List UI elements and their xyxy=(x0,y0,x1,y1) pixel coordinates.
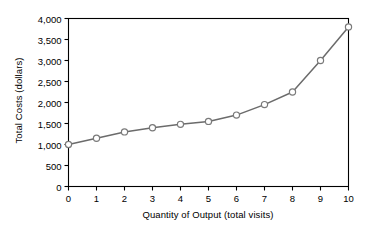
x-axis-tick-label: 9 xyxy=(318,193,323,204)
data-point-marker xyxy=(121,129,127,135)
data-point-marker xyxy=(317,57,323,63)
x-axis-tick-label: 6 xyxy=(234,193,239,204)
y-axis-tick-label: 2,500 xyxy=(24,76,62,87)
data-point-marker xyxy=(233,112,239,118)
x-axis-title: Quantity of Output (total visits) xyxy=(68,204,348,222)
y-axis-title-text: Total Costs (dollars) xyxy=(13,57,24,143)
x-axis-tick-label: 2 xyxy=(122,193,127,204)
y-axis-tick-label: 2,000 xyxy=(24,97,62,108)
x-axis-tick-label: 5 xyxy=(206,193,211,204)
x-axis-tick-label: 7 xyxy=(262,193,267,204)
data-point-marker xyxy=(177,121,183,127)
y-axis-tick-label: 3,500 xyxy=(24,34,62,45)
y-axis-tick-label: 1,500 xyxy=(24,118,62,129)
data-point-marker xyxy=(65,141,71,147)
data-point-marker xyxy=(345,24,351,30)
x-axis-tick-label: 4 xyxy=(178,193,183,204)
x-axis-title-text: Quantity of Output (total visits) xyxy=(142,209,273,220)
y-axis-tick-label: 0 xyxy=(24,181,62,192)
x-axis-tick-label: 1 xyxy=(94,193,99,204)
x-axis-tick-label: 3 xyxy=(150,193,155,204)
x-axis-tick-label: 10 xyxy=(343,193,354,204)
y-axis-tick-label: 4,000 xyxy=(24,13,62,24)
y-axis-tick-label: 3,000 xyxy=(24,55,62,66)
data-point-marker xyxy=(205,118,211,124)
x-axis-tick-label: 0 xyxy=(66,193,71,204)
chart-figure: Total Costs (dollars) Quantity of Output… xyxy=(0,0,378,237)
data-point-marker xyxy=(93,135,99,141)
y-axis-tick-label: 1,000 xyxy=(24,139,62,150)
data-point-marker xyxy=(261,102,267,108)
data-point-marker xyxy=(289,89,295,95)
x-axis-tick-label: 8 xyxy=(290,193,295,204)
y-axis-tick-label: 500 xyxy=(24,160,62,171)
data-point-marker xyxy=(149,125,155,131)
